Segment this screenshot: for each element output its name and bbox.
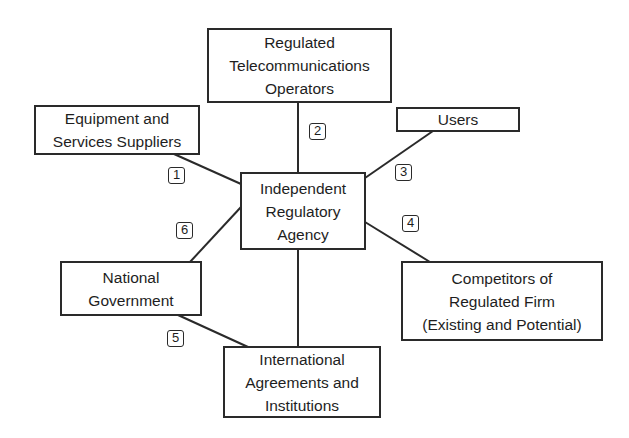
- node-international-line-1: International: [259, 348, 344, 371]
- node-suppliers: Equipment and Services Suppliers: [34, 105, 200, 155]
- node-operators-line-1: Regulated: [264, 31, 335, 54]
- node-agency-line-1: Independent: [260, 177, 346, 200]
- diagram-canvas: Regulated Telecommunications Operators E…: [0, 0, 629, 438]
- node-government-line-1: National: [103, 266, 160, 289]
- node-suppliers-line-1: Equipment and: [65, 107, 169, 130]
- link-label-1: 1: [168, 167, 185, 184]
- link-4-agency-competitors: [365, 222, 430, 262]
- node-government-line-2: Government: [88, 289, 173, 312]
- node-agency-line-3: Agency: [277, 223, 329, 246]
- node-government: National Government: [60, 261, 202, 316]
- link-label-6: 6: [176, 222, 193, 239]
- node-operators-line-2: Telecommunications: [229, 54, 369, 77]
- link-label-3: 3: [395, 164, 412, 181]
- link-label-2: 2: [309, 123, 326, 140]
- node-users: Users: [396, 107, 520, 132]
- node-competitors-line-2: Regulated Firm: [449, 290, 555, 313]
- node-international: International Agreements and Institution…: [223, 346, 381, 418]
- node-suppliers-line-2: Services Suppliers: [53, 130, 181, 153]
- link-label-5: 5: [167, 330, 184, 347]
- link-6-government-agency: [190, 207, 241, 262]
- link-5-government-international: [178, 315, 248, 347]
- node-users-line-1: Users: [438, 108, 478, 131]
- node-operators-line-3: Operators: [265, 77, 334, 100]
- node-international-line-3: Institutions: [265, 394, 339, 417]
- node-operators: Regulated Telecommunications Operators: [207, 28, 392, 103]
- node-agency-line-2: Regulatory: [266, 200, 341, 223]
- link-label-4: 4: [402, 215, 419, 232]
- node-agency: Independent Regulatory Agency: [240, 172, 366, 250]
- node-competitors: Competitors of Regulated Firm (Existing …: [401, 261, 603, 341]
- node-international-line-2: Agreements and: [245, 371, 359, 394]
- node-competitors-line-3: (Existing and Potential): [422, 313, 581, 336]
- node-competitors-line-1: Competitors of: [452, 267, 553, 290]
